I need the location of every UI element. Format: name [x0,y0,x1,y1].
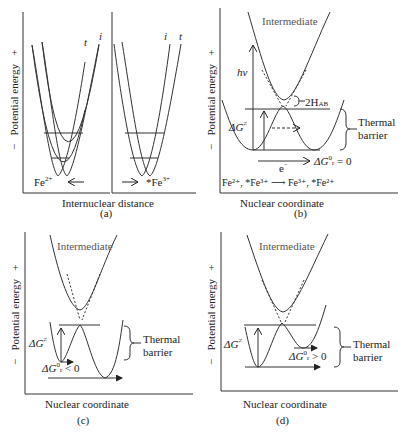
panel-d-graphics [221,232,398,391]
panel-b-barrier-label-1: Thermal [358,116,395,128]
panel-a-curve-label-t: t [84,36,87,48]
panel-c-intermediate-label: Intermediate [57,240,113,252]
panel-c-barrier-label-2: barrier [143,346,172,358]
panel-b-coupling-label: 2HAB [305,96,328,108]
panel-b-hv-label: hν [237,66,247,78]
panel-b-dg0-label: ΔG0r = 0 [314,155,351,167]
panel-d-caption: (d) [276,414,289,426]
panel-b-reaction: Fe²⁺, *Fe³⁺ ⟶ Fe³⁺, *Fe²⁺ [222,177,334,189]
panel-a-ion-fe3: *Fe3+ [146,176,170,188]
panel-a-graphics [23,12,196,193]
panel-d-barrier-label-1: Thermal [353,338,390,350]
panel-d-barrier-label-2: barrier [353,351,382,363]
panel-c-y-axis-label: − Potential energy + [9,264,21,365]
panel-b-intermediate-label: Intermediate [262,15,318,27]
panel-c-dg0-label: ΔG0r < 0 [42,362,79,374]
panel-b-x-axis-label: Nuclear coordinate [240,197,324,209]
panel-a-caption: (a) [100,207,112,219]
panel-d-y-axis-label: − Potential energy + [205,264,217,365]
panel-b-electron-label: e− [279,162,288,174]
panel-a-ion-fe2: Fe2+ [34,176,52,188]
panel-c-caption: (c) [77,414,89,426]
panel-b-caption: (b) [294,207,307,219]
panel-b-y-axis-label: − Potential energy + [205,49,217,150]
panel-b-barrier-label-2: barrier [358,129,387,141]
panel-b-delta-g-label: ΔG≠ [229,121,247,133]
panel-d-intermediate-label: Intermediate [259,240,315,252]
panel-a-right-curve-label-t: t [179,30,182,42]
panel-d-x-axis-label: Nuclear coordinate [243,398,327,410]
panel-c-x-axis-label: Nuclear coordinate [45,398,129,410]
panel-a-right-curve-label-i: i [164,30,167,42]
panel-c-delta-g-label: ΔG≠ [29,337,47,349]
panel-a-curve-label-i: i [99,30,102,42]
panel-c-barrier-label-1: Thermal [143,333,180,345]
panel-d-delta-g-label: ΔG≠ [224,338,242,350]
panel-d-dg0-label: ΔG0r > 0 [289,350,326,362]
panel-a-y-axis-label: − Potential energy + [8,49,20,150]
